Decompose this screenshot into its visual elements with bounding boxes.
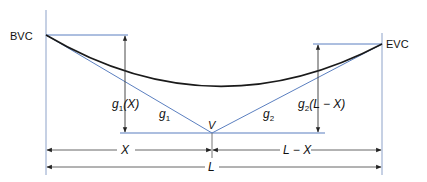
dim-l-label: L (208, 160, 215, 174)
grade2-tangent-line (212, 44, 382, 133)
grade1-label: g1 (159, 107, 171, 123)
grade2-label: g2 (263, 107, 275, 123)
evc-label: EVC (386, 38, 409, 50)
vertex-label: V (208, 119, 217, 131)
bvc-label: BVC (10, 30, 33, 42)
sag-curve-diagram: BVC EVC V g1 g2 g1(X) g2(L − X) X L − X … (0, 0, 427, 182)
vertical-curve (46, 35, 382, 86)
dim-l-minus-x-label: L − X (283, 143, 312, 157)
offset2-label: g2(L − X) (298, 97, 345, 113)
offset1-label: g1(X) (112, 97, 139, 113)
dim-x-label: X (120, 143, 130, 157)
